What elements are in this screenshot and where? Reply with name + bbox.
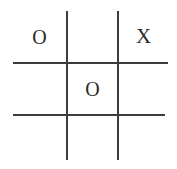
- cell-bottom-right[interactable]: [119, 116, 168, 160]
- cell-top-right[interactable]: X: [119, 11, 168, 62]
- cell-bottom-center[interactable]: [68, 116, 117, 160]
- cell-middle-center[interactable]: O: [68, 64, 117, 114]
- cell-bottom-left[interactable]: [13, 116, 66, 160]
- cell-top-left[interactable]: O: [13, 11, 66, 62]
- cell-middle-right[interactable]: [119, 64, 168, 114]
- cell-top-center[interactable]: [68, 11, 117, 62]
- cell-middle-left[interactable]: [13, 64, 66, 114]
- tic-tac-toe-board: O X O: [0, 0, 177, 169]
